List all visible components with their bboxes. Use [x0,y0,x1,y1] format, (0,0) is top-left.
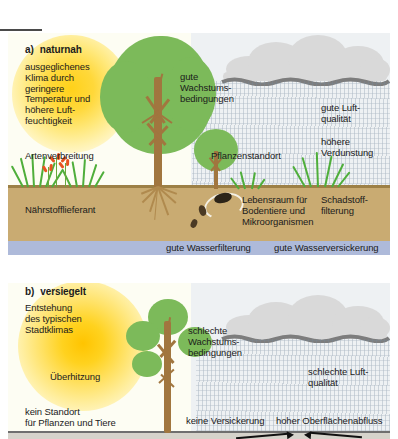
panel-b-marker: b) [25,286,34,297]
label-no-infiltration: keine Versickerung [186,416,264,427]
label-air-quality-b: schlechte Luft- qualität [308,367,368,389]
label-water-infiltration: gute Wasserversickerung [274,243,379,254]
soil-sealing-diagram: a)naturnah ausgeglichenes Klima durch ge… [0,0,398,439]
label-evaporation: höhere Verdunstung [321,137,373,159]
cloud-icon-a [220,34,390,86]
label-growth-conditions-a: gute Wachstums- bedingungen [180,72,234,104]
label-no-habitat: kein Standort für Pflanzen und Tiere [25,407,116,429]
label-soil-habitat: Lebensraum für Bodentiere und Mikroorgan… [242,195,313,227]
panel-b-title: versiegelt [40,286,86,297]
label-air-quality-a: gute Luft- qualität [321,103,360,125]
panel-a-heading: a)naturnah [25,44,82,55]
label-species-spread: Artenverbreitung [25,151,94,162]
label-surface-runoff: hoher Oberflächenabfluss [276,416,382,427]
label-nutrient-supplier: Nährstofflieferant [25,205,95,216]
label-pollutant-filtering: Schadstoff- filterung [321,195,368,217]
label-climate-a: ausgeglichenes Klima durch geringere Tem… [25,62,90,127]
top-rule [0,29,42,31]
panel-b-heading: b)versiegelt [25,286,86,297]
label-plant-site: Pflanzenstandort [211,151,281,162]
label-growth-conditions-b: schlechte Wachstums- bedingungen [188,326,242,358]
panel-a-title: naturnah [40,44,82,55]
label-water-filtering: gute Wasserfilterung [166,243,251,254]
label-climate-b: Entstehung des typischen Stadtklimas [25,303,82,335]
grass-tuft-a2 [68,159,100,187]
panel-a-marker: a) [25,44,34,55]
label-overheating: Überhitzung [50,372,100,383]
grass-tuft-a4 [236,169,264,189]
panel-versiegelt: b)versiegelt Entstehung des typischen St… [8,283,390,439]
cloud-icon-b [220,293,390,343]
panel-naturnah: a)naturnah ausgeglichenes Klima durch ge… [8,33,390,255]
